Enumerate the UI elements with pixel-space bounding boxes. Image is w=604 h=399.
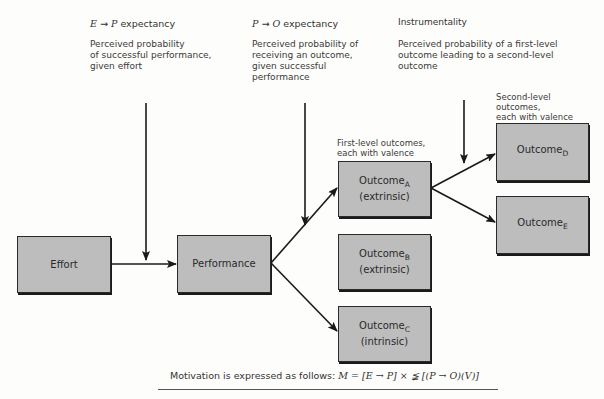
outcome-text: Outcome xyxy=(359,175,405,186)
performance-label: Performance xyxy=(192,258,255,270)
outcome-e-label: OutcomeE xyxy=(517,217,567,233)
outcome-subscript: B xyxy=(405,253,410,262)
outcome-text: Outcome xyxy=(359,248,405,259)
outcome-d-label: OutcomeD xyxy=(517,144,568,160)
outcome-a-box: OutcomeA (extrinsic) xyxy=(338,161,431,217)
outcome-text: Outcome xyxy=(517,144,563,155)
formula-expression: M = [E → P] × ≨ [(P → O)(V)] xyxy=(338,370,479,381)
outcome-subscript: D xyxy=(562,149,568,158)
outcome-a-type: (extrinsic) xyxy=(359,191,409,203)
outcome-c-type: (intrinsic) xyxy=(361,336,409,348)
outcome-text: Outcome xyxy=(359,320,405,331)
outcome-b-type: (extrinsic) xyxy=(359,264,409,276)
outcome-e-box: OutcomeE xyxy=(496,196,589,254)
outcome-text: Outcome xyxy=(517,217,563,228)
outcome-c-label: OutcomeC xyxy=(359,320,410,336)
outcome-subscript: C xyxy=(405,325,410,334)
performance-box: Performance xyxy=(177,235,271,293)
bottom-divider xyxy=(158,389,498,390)
outcome-subscript: A xyxy=(405,180,410,189)
motivation-formula: Motivation is expressed as follows: M = … xyxy=(170,370,479,381)
formula-prefix: Motivation is expressed as follows: xyxy=(170,370,338,381)
effort-box: Effort xyxy=(17,236,111,293)
outcome-c-box: OutcomeC (intrinsic) xyxy=(338,306,431,362)
outcome-subscript: E xyxy=(563,222,568,231)
outcome-b-label: OutcomeB xyxy=(359,248,410,264)
outcome-b-box: OutcomeB (extrinsic) xyxy=(338,234,431,290)
effort-label: Effort xyxy=(50,259,77,271)
outcome-a-label: OutcomeA xyxy=(359,175,410,191)
outcome-d-box: OutcomeD xyxy=(496,123,589,181)
